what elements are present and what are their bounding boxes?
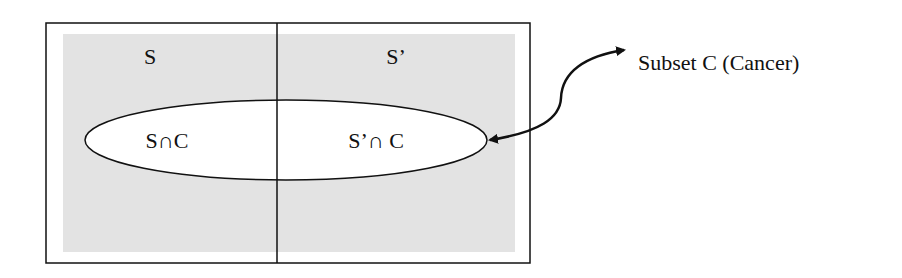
intersection-label-s-complement-c: S’∩ C <box>348 128 404 153</box>
callout-label-subset-c: Subset C (Cancer) <box>638 50 799 75</box>
intersection-label-s-c: S∩C <box>146 128 189 153</box>
region-label-s-complement: S’ <box>386 44 406 69</box>
diagram-canvas: S S’ S∩C S’∩ C Subset C (Cancer) <box>0 0 902 278</box>
region-label-s: S <box>144 44 156 69</box>
venn-diagram: S S’ S∩C S’∩ C Subset C (Cancer) <box>0 0 902 278</box>
